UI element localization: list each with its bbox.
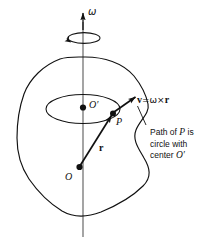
equals-sign: = bbox=[142, 95, 150, 105]
caption-line-3: center O′ bbox=[150, 150, 194, 162]
caption-line-2: circle with bbox=[150, 139, 194, 151]
caption-line-1-pre: Path of bbox=[150, 127, 179, 137]
caption-line-1-post: is bbox=[185, 127, 194, 137]
cross-product-icon: × bbox=[157, 95, 165, 105]
omega-symbol: ω bbox=[150, 95, 158, 105]
radius-vector-label: r bbox=[99, 143, 103, 153]
caption-line-3-pre: center bbox=[150, 150, 176, 160]
point-o-prime-marker bbox=[80, 104, 86, 110]
point-o-marker bbox=[76, 164, 82, 170]
point-p-label: P bbox=[116, 117, 122, 127]
caption-line-1: Path of P is bbox=[150, 127, 194, 139]
omega-label: ω bbox=[88, 7, 96, 17]
caption-line-3-italic: O′ bbox=[176, 150, 185, 160]
point-o-label: O bbox=[65, 172, 72, 182]
rigid-body-rotation-diagram bbox=[0, 0, 218, 240]
r-symbol: r bbox=[165, 94, 169, 105]
point-o-prime-label: O′ bbox=[89, 100, 98, 110]
path-caption: Path of P is circle with center O′ bbox=[150, 127, 194, 162]
velocity-equation-label: v=ω×r bbox=[137, 95, 169, 105]
